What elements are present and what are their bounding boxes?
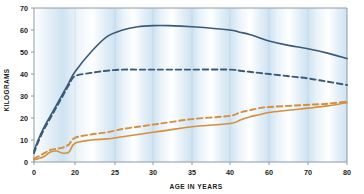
y-tick-label: 0 (24, 158, 28, 167)
y-axis-label: KILOGRAMS (3, 68, 10, 111)
x-tick-label: 60 (265, 168, 273, 177)
background-band (172, 8, 192, 162)
x-tick-label: 25 (111, 168, 119, 177)
x-axis-label: AGE IN YEARS (169, 183, 222, 190)
background-band (211, 8, 230, 162)
x-tick-label: 0 (32, 168, 36, 177)
y-tick-label: 20 (20, 114, 28, 123)
x-tick-label: 20 (71, 168, 79, 177)
y-tick-label: 40 (20, 70, 28, 79)
background-bands (34, 8, 347, 162)
y-tick-label: 50 (20, 48, 28, 57)
background-band (153, 8, 172, 162)
y-tick-label: 10 (20, 136, 28, 145)
background-band (250, 8, 269, 162)
background-band (308, 8, 328, 162)
y-tick-label: 60 (20, 26, 28, 35)
chart-container: 01020304050607002025303540607080 AGE IN … (0, 0, 364, 194)
x-tick-label: 35 (188, 168, 196, 177)
x-tick-label: 80 (343, 168, 351, 177)
y-tick-label: 70 (20, 4, 28, 13)
background-band (134, 8, 153, 162)
background-band (328, 8, 347, 162)
background-band (269, 8, 289, 162)
background-band (192, 8, 211, 162)
y-tick-label: 30 (20, 92, 28, 101)
x-tick-label: 30 (149, 168, 157, 177)
x-tick-label: 70 (304, 168, 312, 177)
x-tick-label: 40 (226, 168, 234, 177)
growth-chart: 01020304050607002025303540607080 AGE IN … (0, 0, 364, 194)
background-band (289, 8, 308, 162)
